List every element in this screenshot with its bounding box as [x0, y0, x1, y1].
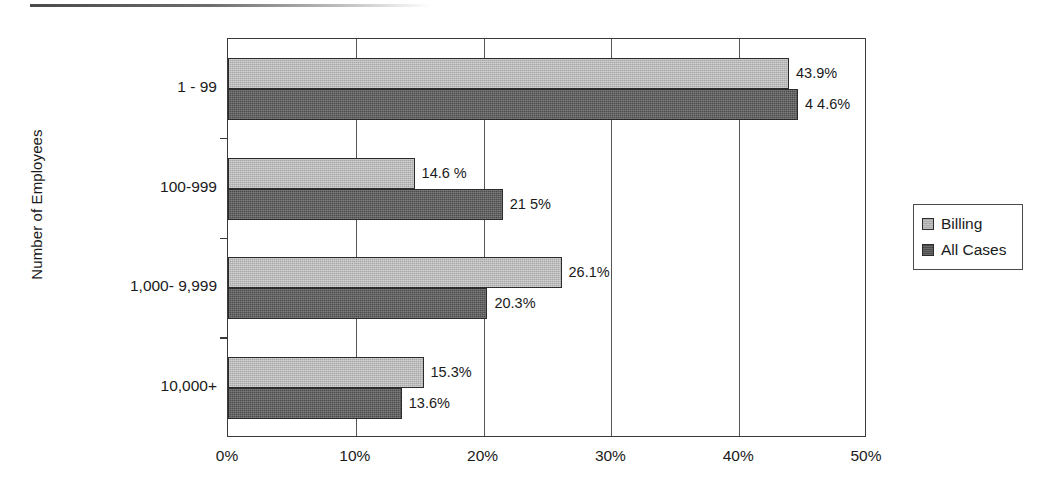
all-cases-swatch-icon [922, 244, 934, 256]
bar-billing[interactable] [228, 357, 424, 388]
legend-label-all-cases: All Cases [941, 241, 1006, 259]
x-axis-tick-label: 0% [216, 447, 238, 465]
x-axis-tick-labels: 0%10%20%30%40%50% [227, 447, 866, 473]
x-axis-tick-label: 10% [339, 447, 370, 465]
y-axis-tick [220, 238, 228, 240]
y-axis-tick [220, 337, 228, 339]
bar-all-cases[interactable] [228, 89, 798, 120]
y-axis-tick [220, 138, 228, 140]
bar-billing[interactable] [228, 257, 562, 288]
plot-area: 43.9%4 4.6%14.6 %21 5%26.1%20.3%15.3%13.… [227, 38, 866, 437]
legend-item-billing[interactable]: Billing [922, 211, 1022, 237]
y-axis-category-label: 1,000- 9,999 [17, 277, 217, 295]
bar-value-label: 4 4.6% [805, 96, 850, 112]
y-axis-category-labels: 1 - 99100-9991,000- 9,99910,000+ [10, 38, 217, 437]
bar-group: 14.6 %21 5% [228, 158, 865, 220]
bar-value-label: 20.3% [494, 295, 535, 311]
bar-billing[interactable] [228, 158, 415, 189]
billing-swatch-icon [922, 218, 934, 230]
x-axis-tick-label: 20% [467, 447, 498, 465]
bar-group: 43.9%4 4.6% [228, 58, 865, 120]
bar-value-label: 15.3% [431, 364, 472, 380]
horizontal-bar-chart: Number of Employees 1 - 99100-9991,000- … [0, 0, 1062, 503]
bar-value-label: 14.6 % [422, 165, 467, 181]
bar-group: 26.1%20.3% [228, 257, 865, 319]
bar-value-label: 21 5% [510, 196, 551, 212]
legend-item-all-cases[interactable]: All Cases [922, 237, 1022, 263]
bar-all-cases[interactable] [228, 189, 503, 220]
chart-legend: Billing All Cases [913, 204, 1023, 270]
y-axis-category-label: 1 - 99 [17, 78, 217, 96]
bar-all-cases[interactable] [228, 288, 487, 319]
bar-billing[interactable] [228, 58, 789, 89]
bar-value-label: 13.6% [409, 395, 450, 411]
legend-label-billing: Billing [941, 215, 982, 233]
bar-value-label: 43.9% [796, 65, 837, 81]
x-axis-tick-label: 50% [850, 447, 881, 465]
bar-group: 15.3%13.6% [228, 357, 865, 419]
x-axis-tick-label: 30% [595, 447, 626, 465]
x-axis-tick-label: 40% [723, 447, 754, 465]
bar-value-label: 26.1% [569, 264, 610, 280]
y-axis-category-label: 10,000+ [17, 377, 217, 395]
y-axis-category-label: 100-999 [17, 178, 217, 196]
bar-all-cases[interactable] [228, 388, 402, 419]
